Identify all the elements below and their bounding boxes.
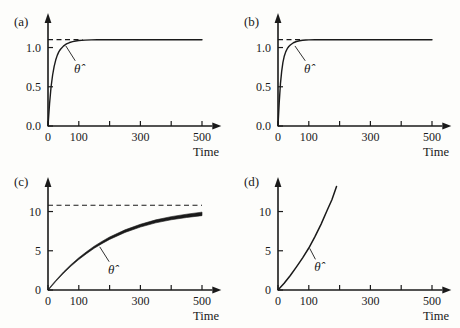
svg-text:θ̂: θ̂ (314, 259, 325, 274)
svg-text:0: 0 (45, 130, 51, 144)
svg-text:θ̂: θ̂ (304, 61, 315, 76)
svg-text:Time: Time (193, 145, 219, 159)
svg-text:0: 0 (275, 130, 281, 144)
svg-text:0.0: 0.0 (256, 119, 271, 133)
svg-text:5: 5 (265, 244, 271, 258)
svg-text:1.0: 1.0 (256, 41, 271, 55)
svg-text:0.5: 0.5 (256, 80, 271, 94)
plot-c: 01003005000510Timeθ̂ (0, 164, 230, 328)
svg-text:Time: Time (423, 145, 449, 159)
plot-d: 01003005000510Timeθ̂ (230, 164, 460, 328)
plot-b: 01003005000.00.51.0Timeθ̂ (230, 0, 460, 164)
svg-text:300: 300 (361, 294, 379, 308)
svg-text:0.5: 0.5 (26, 80, 41, 94)
svg-text:100: 100 (70, 294, 88, 308)
svg-text:1.0: 1.0 (26, 41, 41, 55)
svg-text:300: 300 (361, 130, 379, 144)
svg-text:Time: Time (423, 309, 449, 323)
svg-text:300: 300 (131, 294, 149, 308)
svg-text:100: 100 (300, 294, 318, 308)
svg-text:500: 500 (193, 294, 211, 308)
svg-text:0: 0 (35, 283, 41, 297)
panel-a: (a) 01003005000.00.51.0Timeθ̂ (0, 0, 230, 164)
svg-text:500: 500 (423, 130, 441, 144)
svg-text:10: 10 (259, 205, 271, 219)
svg-text:10: 10 (29, 205, 41, 219)
svg-text:θ̂: θ̂ (108, 262, 119, 277)
svg-text:300: 300 (131, 130, 149, 144)
figure-container: (a) 01003005000.00.51.0Timeθ̂ (b) 010030… (0, 0, 460, 328)
svg-text:100: 100 (300, 130, 318, 144)
svg-text:θ̂: θ̂ (74, 61, 85, 76)
plot-a: 01003005000.00.51.0Timeθ̂ (0, 0, 230, 164)
svg-text:100: 100 (70, 130, 88, 144)
svg-text:0: 0 (265, 283, 271, 297)
svg-text:Time: Time (193, 309, 219, 323)
svg-text:5: 5 (35, 244, 41, 258)
svg-text:0: 0 (45, 294, 51, 308)
panel-d: (d) 01003005000510Timeθ̂ (230, 164, 460, 328)
panel-c: (c) 01003005000510Timeθ̂ (0, 164, 230, 328)
panel-b: (b) 01003005000.00.51.0Timeθ̂ (230, 0, 460, 164)
svg-text:500: 500 (423, 294, 441, 308)
svg-text:0.0: 0.0 (26, 119, 41, 133)
svg-text:0: 0 (275, 294, 281, 308)
svg-text:500: 500 (193, 130, 211, 144)
